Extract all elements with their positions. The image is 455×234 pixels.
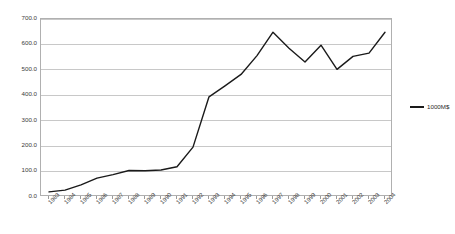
x-tick-label: 1987 (111, 192, 125, 206)
x-tick-label: 1992 (191, 192, 205, 206)
x-tick-label: 2001 (335, 192, 349, 206)
x-tick-label: 1988 (127, 192, 141, 206)
x-tick-label: 1995 (239, 192, 253, 206)
x-tick-label: 1990 (159, 192, 173, 206)
x-tick-label: 1984 (63, 192, 77, 206)
x-tick-label: 2000 (319, 192, 333, 206)
x-tick-label: 1986 (95, 192, 109, 206)
x-tick-label: 1985 (79, 192, 93, 206)
x-tick-label: 1991 (175, 192, 189, 206)
x-tick-label: 1997 (271, 192, 285, 206)
x-tick-label: 2004 (383, 192, 397, 206)
x-tick-label: 1996 (255, 192, 269, 206)
x-tick-label: 1999 (303, 192, 317, 206)
x-tick-label: 2003 (367, 192, 381, 206)
chart-legend: 1000M$ (410, 104, 449, 110)
x-axis-labels: 1983198419851986198719881989199019911992… (0, 0, 455, 234)
x-tick-label: 1983 (47, 192, 61, 206)
x-tick-label: 1998 (287, 192, 301, 206)
x-tick-label: 1989 (143, 192, 157, 206)
legend-swatch-icon (410, 106, 424, 108)
x-tick-label: 1993 (207, 192, 221, 206)
x-tick-label: 1994 (223, 192, 237, 206)
x-tick-label: 2002 (351, 192, 365, 206)
legend-label: 1000M$ (427, 104, 449, 110)
line-chart: 0.0100.0200.0300.0400.0500.0600.0700.0 1… (0, 0, 455, 234)
